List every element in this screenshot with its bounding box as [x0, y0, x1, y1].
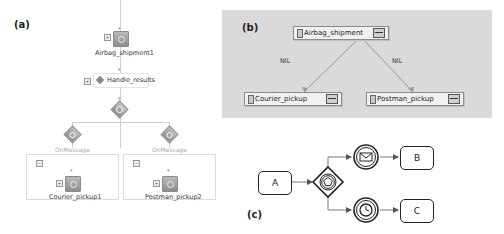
panel-b: (b) NIL NIL Airbag_shipment Courier_pick…	[222, 10, 492, 118]
edge-label-nil-right: NIL	[392, 57, 402, 65]
arrow-icon: ▾	[70, 167, 73, 173]
timer-event-icon	[354, 198, 378, 222]
onmessage-label: OnMessage	[55, 146, 90, 153]
assign-icon	[96, 76, 104, 84]
node-courier-pickup[interactable]: Courier_pickup	[244, 92, 342, 106]
document-icon	[370, 95, 376, 104]
invoke-label-airbag-shipment: Airbag_shipment1	[95, 49, 154, 57]
message-event-icon	[354, 145, 378, 169]
onmessage-scope-courier: − ▾ + Courier_pickup1	[26, 154, 119, 200]
expand-icon[interactable]: +	[84, 78, 91, 85]
pick-gateway-icon[interactable]	[110, 100, 128, 118]
task-c[interactable]: C	[400, 199, 434, 223]
assign-activity[interactable]: Handle_results	[93, 73, 149, 88]
assign-label: Handle_results	[107, 76, 155, 84]
invoke-label-postman-pickup: Postman_pickup2	[145, 193, 202, 201]
expand-icon[interactable]: +	[153, 180, 160, 187]
expand-icon[interactable]	[326, 94, 338, 104]
onmessage-icon[interactable]	[160, 125, 178, 143]
onmessage-icon[interactable]	[63, 125, 81, 143]
collapse-icon[interactable]: −	[36, 160, 43, 167]
edge-label-nil-left: NIL	[280, 57, 290, 65]
collapse-icon[interactable]: −	[133, 160, 140, 167]
node-label: Airbag_shipment	[304, 27, 363, 39]
task-a[interactable]: A	[258, 171, 292, 195]
onmessage-label: OnMessage	[152, 146, 187, 153]
expand-icon[interactable]: +	[104, 34, 111, 41]
invoke-icon-courier-pickup[interactable]	[65, 176, 81, 192]
invoke-label-courier-pickup: Courier_pickup1	[49, 193, 102, 201]
node-label: Courier_pickup	[255, 93, 307, 105]
panel-a-label: (a)	[14, 19, 30, 30]
expand-icon[interactable]: +	[56, 180, 63, 187]
task-b[interactable]: B	[400, 146, 434, 170]
event-gateway-icon	[313, 167, 343, 197]
onmessage-scope-postman: − ▾ + Postman_pickup2	[123, 154, 216, 200]
arrow-icon: ▾	[118, 66, 121, 72]
arrow-icon: ▾	[167, 167, 170, 173]
node-label: Postman_pickup	[377, 93, 434, 105]
node-postman-pickup[interactable]: Postman_pickup	[366, 92, 464, 106]
expand-icon[interactable]	[373, 28, 385, 38]
invoke-icon-postman-pickup[interactable]	[162, 176, 178, 192]
document-icon	[297, 29, 303, 38]
invoke-icon-airbag-shipment[interactable]	[113, 31, 129, 47]
document-icon	[248, 95, 254, 104]
expand-icon[interactable]	[448, 94, 460, 104]
node-airbag-shipment[interactable]: Airbag_shipment	[293, 26, 389, 40]
branch-line	[72, 122, 169, 123]
